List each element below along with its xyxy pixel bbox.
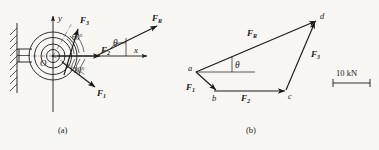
polygon-force-label-fr: FR: [246, 28, 257, 39]
angle-label-30: 30°: [74, 66, 85, 75]
force-label-f3: F3: [79, 15, 89, 26]
polygon-edge-ad: [196, 21, 316, 72]
vertex-label-a: a: [188, 63, 192, 73]
scale-bar-label: 10 kN: [336, 68, 357, 78]
vertex-label-b: b: [212, 93, 216, 103]
angle-label-theta-a: θ: [113, 38, 118, 48]
engineering-figure: y x O F3 F2 F1 FR 60° 30° θ (a): [0, 0, 379, 150]
polygon-edge-ab: [196, 72, 216, 90]
panel-a-free-body-diagram: y x O F3 F2 F1 FR 60° 30° θ (a): [10, 13, 162, 135]
wall-hatching: [10, 28, 17, 91]
polygon-force-label-f2: F2: [240, 93, 250, 104]
angle-label-60: 60°: [72, 33, 83, 42]
scale-bar: [333, 79, 370, 87]
force-label-f1: F1: [96, 88, 106, 99]
axis-y-label: y: [57, 13, 62, 23]
vertex-label-d: d: [320, 11, 325, 21]
wall-support: [10, 23, 17, 93]
vertex-label-c: c: [288, 91, 292, 101]
axis-x-label: x: [133, 45, 138, 55]
angle-label-theta-b: θ: [235, 60, 240, 70]
panel-a-caption: (a): [58, 125, 68, 135]
force-label-f2: F2: [100, 45, 110, 56]
panel-b-force-polygon: a b c d F1 F2 F3 FR θ 10 kN (b): [185, 11, 370, 135]
origin-label: O: [40, 58, 47, 68]
panel-b-caption: (b): [246, 125, 256, 135]
panel-b-labels: a b c d F1 F2 F3 FR θ 10 kN (b): [185, 11, 357, 135]
polygon-force-label-f1: F1: [185, 82, 195, 93]
force-label-fr: FR: [151, 13, 162, 24]
polygon-force-label-f3: F3: [310, 49, 320, 60]
